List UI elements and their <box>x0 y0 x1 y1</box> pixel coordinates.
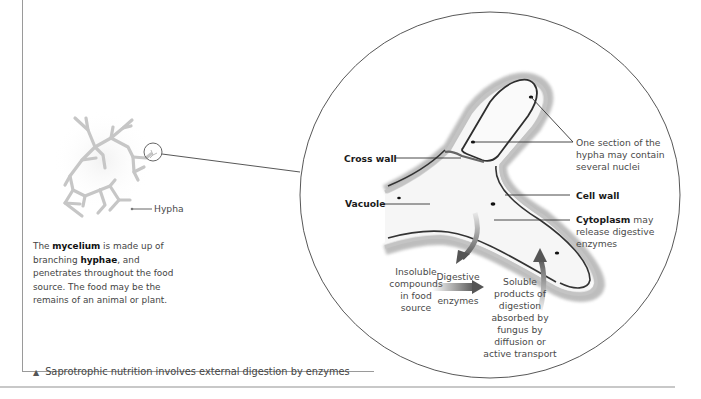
term-mycelium: mycelium <box>52 241 100 251</box>
cross-wall-label: Cross wall <box>344 153 397 165</box>
term-hyphae: hyphae <box>80 255 117 265</box>
mycelium-illustration <box>53 110 153 216</box>
hypha-label: Hypha <box>154 203 184 215</box>
caption-text: Saprotrophic nutrition involves external… <box>45 366 350 377</box>
soluble-products-label: Soluble products of digestion absorbed b… <box>470 276 570 360</box>
cytoplasm-label: Cytoplasm may release digestive enzymes <box>576 214 654 250</box>
cell-wall-label: Cell wall <box>576 190 619 202</box>
triangle-marker-icon: ▲ <box>33 368 39 377</box>
mycelium-description: The mycelium is made up of branching hyp… <box>33 240 183 308</box>
figure-caption: ▲Saprotrophic nutrition involves externa… <box>33 366 350 377</box>
magnifier-connector <box>144 143 300 172</box>
vacuole-label: Vacuole <box>345 198 386 210</box>
nuclei-label: One section of the hypha may contain sev… <box>576 137 665 173</box>
desc-text-1: The <box>33 241 52 251</box>
